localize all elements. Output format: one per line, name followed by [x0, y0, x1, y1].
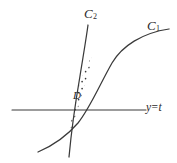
figure-container: ... C2 C1 D y=t: [0, 0, 177, 163]
curve-c2-label: C2: [84, 7, 97, 20]
curve-c1-label: C1: [147, 19, 160, 32]
region-d: [60, 50, 102, 145]
axis-label: y=t: [146, 102, 162, 114]
region-d-label: D: [73, 90, 81, 101]
axis-label-value: t: [159, 101, 162, 113]
curve-c1: [38, 29, 169, 152]
axis-label-variable: y: [146, 101, 151, 113]
stipple-fill: [60, 50, 102, 145]
curve-c2-label-text: C: [84, 6, 93, 21]
curve-c1-label-subscript: 1: [156, 24, 160, 33]
curve-c2-label-subscript: 2: [93, 12, 97, 21]
curve-c1-label-text: C: [147, 18, 156, 33]
axis-label-equals: =: [152, 101, 159, 113]
